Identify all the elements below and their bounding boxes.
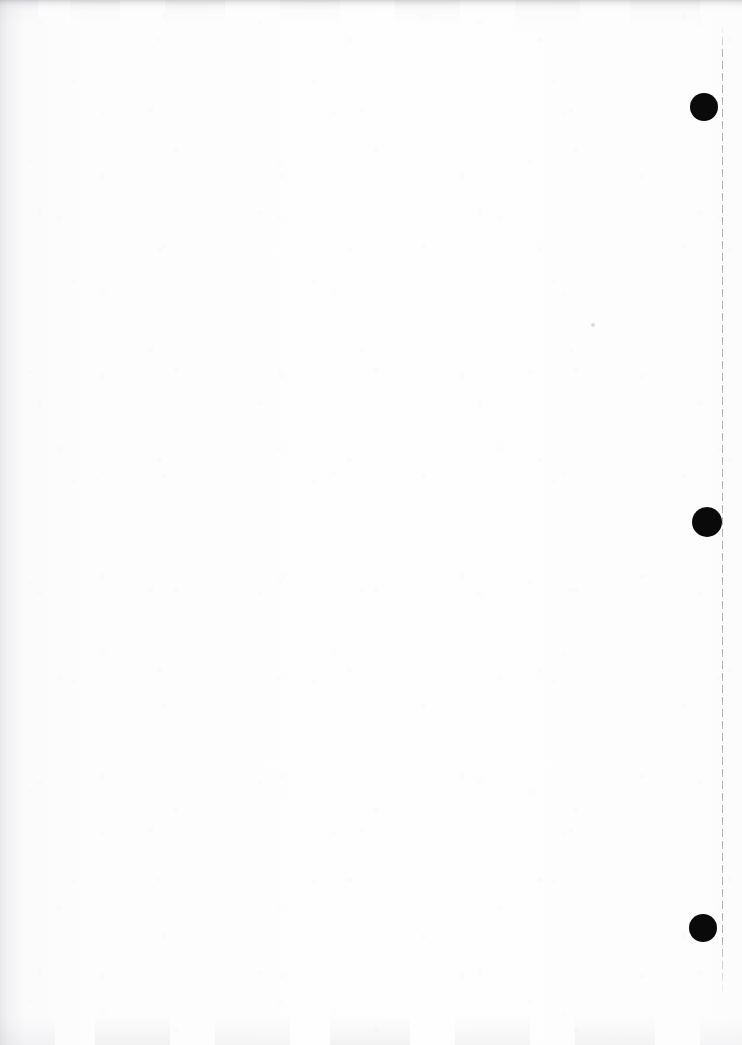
bottom-register-mark: [689, 914, 717, 942]
right-margin-dashed-rule: [722, 25, 723, 1000]
stray-speck: [591, 323, 595, 327]
top-register-mark: [690, 93, 718, 121]
scanned-page: [0, 0, 742, 1045]
page-body-text: [26, 30, 696, 990]
middle-register-mark: [692, 507, 722, 537]
